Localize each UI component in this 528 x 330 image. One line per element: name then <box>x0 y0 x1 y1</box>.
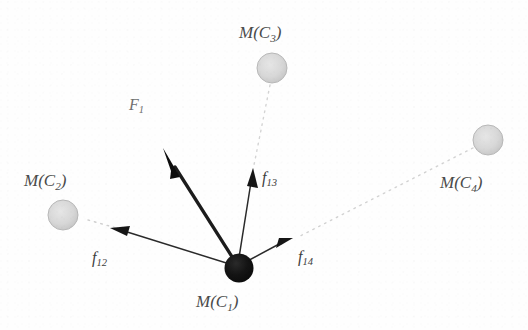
c1-circle <box>225 254 254 283</box>
vector-label-f1: F1 <box>129 97 144 113</box>
f13-shaft <box>238 182 251 264</box>
neighbor-node-c3 <box>257 53 287 83</box>
force-vector-f1-resultant <box>163 148 236 263</box>
force-vector-f13 <box>238 168 258 264</box>
connector-c1-c4 <box>300 148 473 236</box>
neighbor-node-c2 <box>48 200 78 230</box>
center-node-c1 <box>225 254 254 283</box>
vector-label-f13: f13 <box>262 170 277 186</box>
c4-circle <box>473 125 503 155</box>
node-label-c1: M(C1) <box>196 293 238 310</box>
force-diagram-figure: M(C3) M(C2) M(C4) M(C1) F1 f12 f13 f14 <box>0 0 528 330</box>
f1-shaft <box>175 167 236 263</box>
connector-lines <box>88 85 473 236</box>
node-label-c2: M(C2) <box>24 172 66 189</box>
diagram-canvas <box>0 0 528 330</box>
vector-label-f14: f14 <box>298 249 313 265</box>
node-label-c3: M(C3) <box>239 24 281 41</box>
node-label-c4: M(C4) <box>440 174 482 191</box>
neighbor-node-c4 <box>473 125 503 155</box>
f13-arrowhead <box>247 168 258 188</box>
vector-label-f12: f12 <box>92 250 107 266</box>
f1-arrowhead <box>163 148 180 179</box>
c3-circle <box>257 53 287 83</box>
connector-c1-c3 <box>252 85 270 175</box>
c2-circle <box>48 200 78 230</box>
f14-arrowhead <box>276 238 293 248</box>
